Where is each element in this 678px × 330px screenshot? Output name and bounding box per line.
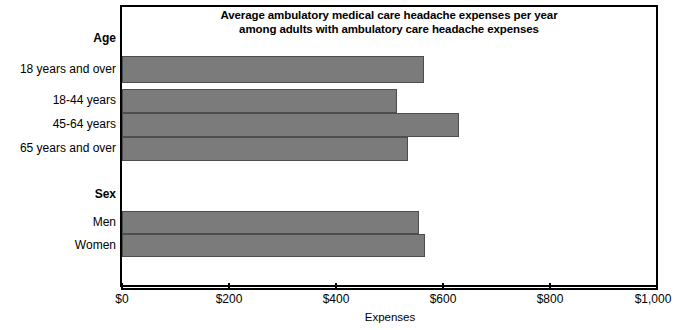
bar-65-years-and-over [122, 137, 408, 161]
tick-mark-0 [121, 283, 123, 289]
tick-mark-1000 [656, 283, 658, 289]
tick-label-800: $800 [537, 292, 564, 306]
bar-18-44-years [122, 89, 397, 113]
bar-women [122, 234, 425, 257]
tick-label-1000: $1,000 [635, 292, 672, 306]
chart-container: Average ambulatory medical care headache… [0, 0, 678, 330]
x-axis-title: Expenses [122, 310, 658, 324]
x-axis-line [121, 288, 658, 290]
tick-mark-400 [335, 283, 337, 289]
tick-mark-200 [228, 283, 230, 289]
bar-18-years-and-over [122, 56, 424, 83]
tick-label-400: $400 [323, 292, 350, 306]
tick-mark-800 [549, 283, 551, 289]
bars-layer [0, 0, 678, 330]
tick-mark-600 [442, 283, 444, 289]
tick-label-200: $200 [216, 292, 243, 306]
tick-label-0: $0 [115, 292, 128, 306]
bar-men [122, 211, 419, 234]
bar-45-64-years [122, 113, 459, 137]
tick-label-600: $600 [430, 292, 457, 306]
